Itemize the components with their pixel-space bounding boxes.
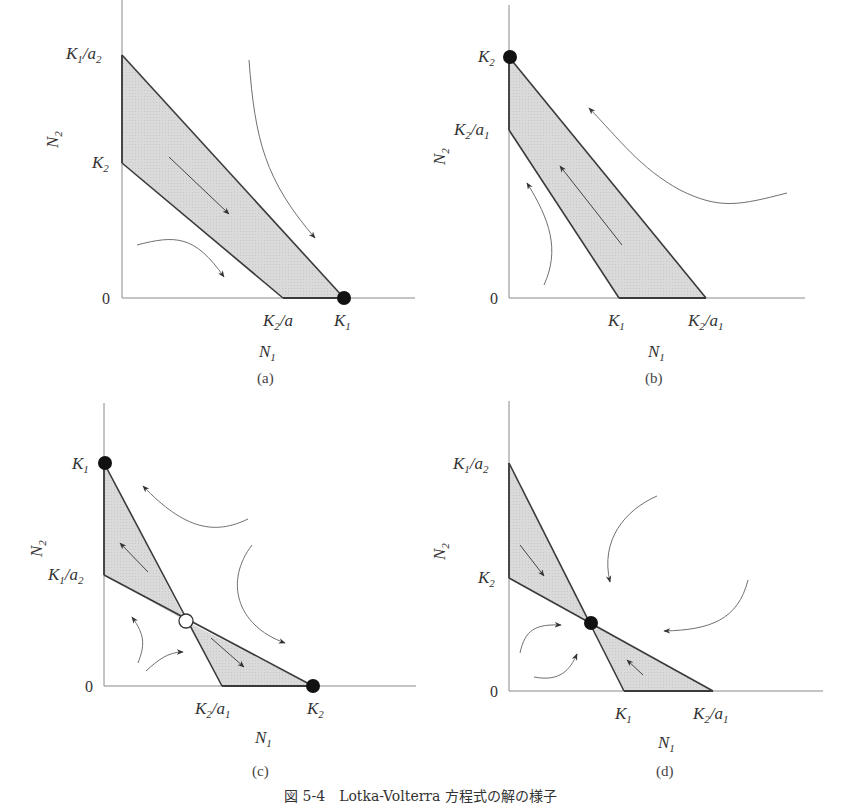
- svg-text:K2: K2: [306, 699, 324, 720]
- panel-d: K1/a2 K2 0 K1 K2/a1 N1 N2 (d): [430, 401, 823, 780]
- trajectory-arrow: [146, 652, 183, 671]
- svg-text:K2/a1: K2/a1: [692, 704, 729, 725]
- figure-caption: 図 5-4 Lotka-Volterra 方程式の解の様子: [0, 785, 841, 805]
- trajectory-arrow: [664, 580, 748, 631]
- svg-text:0: 0: [85, 678, 93, 695]
- trajectory-arrow: [527, 183, 552, 285]
- trajectory-arrow: [137, 240, 224, 277]
- svg-text:K1: K1: [71, 454, 89, 475]
- svg-text:N1: N1: [254, 728, 272, 749]
- stable-point-icon: [98, 456, 112, 470]
- svg-text:K2: K2: [477, 568, 495, 589]
- svg-text:N2: N2: [27, 540, 48, 558]
- stable-point-icon: [584, 616, 598, 630]
- svg-text:N1: N1: [657, 733, 675, 754]
- svg-text:K2: K2: [91, 153, 109, 174]
- stable-point-icon: [337, 291, 351, 305]
- svg-text:N2: N2: [430, 543, 451, 561]
- svg-text:N2: N2: [43, 131, 64, 149]
- trajectory-arrow: [237, 545, 285, 643]
- panel-label: (a): [257, 370, 274, 387]
- svg-text:K2: K2: [477, 47, 495, 68]
- svg-text:K1: K1: [614, 704, 632, 725]
- lotka-volterra-figure: K1/a2 K2 0 K2/a K1 N1 N2 (a) K2 K2/a1 0 …: [0, 0, 841, 812]
- svg-text:N1: N1: [647, 342, 665, 363]
- svg-text:N1: N1: [258, 342, 276, 363]
- panel-label: (d): [656, 763, 674, 780]
- trajectory-arrow: [608, 496, 657, 582]
- trajectory-arrow: [534, 654, 577, 678]
- isocline-n2: [509, 578, 713, 691]
- svg-text:K1: K1: [333, 311, 351, 332]
- panel-label: (c): [252, 763, 269, 780]
- svg-text:K1/a2: K1/a2: [65, 44, 102, 65]
- svg-text:K2/a1: K2/a1: [453, 120, 490, 141]
- panel-label: (b): [645, 370, 663, 387]
- panel-b: K2 K2/a1 0 K1 K2/a1 N1 N2 (b): [430, 5, 805, 387]
- stable-point-icon: [306, 679, 320, 693]
- svg-text:K1/a2: K1/a2: [452, 454, 489, 475]
- svg-text:K2/a: K2/a: [262, 311, 293, 332]
- svg-text:K2/a1: K2/a1: [687, 311, 724, 332]
- svg-text:0: 0: [490, 290, 498, 307]
- panel-a: K1/a2 K2 0 K2/a K1 N1 N2 (a): [43, 0, 415, 387]
- svg-text:0: 0: [490, 683, 498, 700]
- svg-text:N2: N2: [430, 148, 451, 166]
- trajectory-arrow: [520, 625, 561, 653]
- svg-text:K1/a2: K1/a2: [47, 565, 84, 586]
- trajectory-arrow: [132, 617, 143, 663]
- trajectory-arrow: [143, 486, 248, 527]
- svg-text:K2/a1: K2/a1: [194, 699, 231, 720]
- trajectory-arrow: [589, 108, 787, 204]
- isocline-n2: [104, 575, 313, 686]
- svg-text:0: 0: [102, 290, 110, 307]
- stable-point-icon: [503, 50, 517, 64]
- unstable-point-icon: [179, 614, 193, 628]
- panel-c: K1 K1/a2 0 K2/a1 K2 N1 N2 (c): [27, 403, 416, 780]
- svg-text:K1: K1: [607, 311, 625, 332]
